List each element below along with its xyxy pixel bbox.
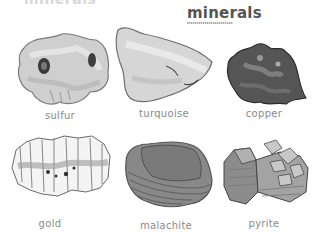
mineral-label: gold: [0, 218, 100, 229]
page-title: minerals: [187, 4, 262, 22]
mineral-pyrite: pyrite: [220, 136, 312, 232]
pyrite-illustration: [220, 136, 312, 210]
sulfur-illustration: [10, 30, 110, 110]
mineral-malachite: malachite: [120, 136, 216, 232]
mineral-turquoise: turquoise: [112, 24, 212, 120]
mineral-label: pyrite: [214, 218, 312, 229]
mineral-label: turquoise: [114, 108, 214, 119]
mineral-label: sulfur: [10, 110, 110, 121]
malachite-illustration: [120, 136, 216, 210]
mineral-sulfur: sulfur: [10, 30, 110, 120]
mineral-label: malachite: [116, 220, 216, 231]
gold-illustration: [8, 132, 112, 204]
mineral-gold: gold: [8, 132, 112, 232]
copper-illustration: [220, 40, 312, 110]
mineral-copper: copper: [220, 40, 312, 120]
cut-off-heading: minerals: [24, 0, 96, 7]
mineral-label: copper: [214, 108, 312, 119]
turquoise-illustration: [112, 24, 216, 108]
